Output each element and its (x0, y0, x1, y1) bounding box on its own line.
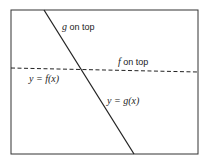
g-curve-label: y = g(x) (107, 95, 139, 106)
g-on-top-label: g on top (62, 21, 95, 32)
f-on-top-label: f on top (118, 56, 148, 67)
f-curve-label: y = f(x) (29, 73, 59, 84)
f-dashed-line (11, 68, 198, 72)
f-on-top-text: on top (121, 57, 149, 67)
g-on-top-text: on top (67, 22, 95, 32)
